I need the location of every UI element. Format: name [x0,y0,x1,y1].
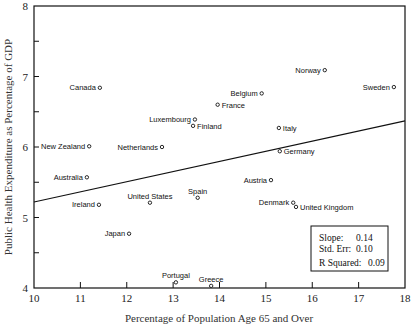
point-label: Netherlands [118,143,159,152]
data-point: Spain [188,187,207,200]
point-label: Denmark [259,198,290,207]
point-marker-icon [278,150,281,153]
point-marker-icon [98,86,101,89]
x-axis-title: Percentage of Population Age 65 and Over [125,312,314,324]
slope-label: Slope: [319,233,343,243]
point-marker-icon [174,281,177,284]
regression-stats-box: Slope: 0.14 Std. Err: 0.10 R Squared: 0.… [311,226,388,271]
point-label: Austria [244,176,268,185]
x-tick-label: 16 [307,292,319,304]
point-label: Australia [54,173,84,182]
point-marker-icon [323,68,326,71]
data-point: Finland [191,122,221,131]
point-label: Greece [199,275,224,284]
y-tick-label: 7 [23,71,29,83]
y-tick-label: 8 [23,0,29,12]
data-point: Germany [278,147,315,156]
r-squared-value: 0.09 [368,258,385,268]
point-marker-icon [292,201,295,204]
point-label: Portugal [162,271,190,280]
point-marker-icon [277,126,280,129]
point-label: United Kingdom [300,203,353,212]
point-marker-icon [148,201,151,204]
data-point: Austria [244,176,273,185]
x-tick-label: 18 [400,292,412,304]
point-label: Italy [283,124,297,133]
point-label: Belgium [231,89,258,98]
point-label: New Zealand [41,142,85,151]
point-marker-icon [193,118,196,121]
x-tick-label: 13 [168,292,180,304]
data-point: Australia [54,173,89,182]
point-label: France [222,101,245,110]
data-point: Portugal [162,271,190,284]
data-point: Ireland [72,200,101,209]
point-marker-icon [127,232,130,235]
point-label: Norway [295,66,321,75]
data-point: Belgium [231,89,264,98]
point-label: Canada [70,83,97,92]
x-tick-label: 11 [75,292,86,304]
r-squared-label: R Squared: [319,258,361,268]
data-point: Norway [295,66,326,75]
x-tick-label: 17 [353,292,365,304]
point-marker-icon [216,103,219,106]
data-point: Canada [70,83,102,92]
x-tick-label: 10 [29,292,41,304]
y-tick-label: 6 [23,141,29,153]
slope-value: 0.14 [356,233,373,243]
point-label: Ireland [72,200,95,209]
regression-line [34,121,405,202]
data-point: Japan [105,229,131,238]
data-point: France [216,101,245,110]
data-point: Denmark [259,198,295,207]
point-label: Luxembourg [149,115,191,124]
y-axis-title: Public Health Expenditure as Percentage … [2,39,14,255]
x-tick-label: 15 [260,292,272,304]
data-point: Netherlands [118,143,164,152]
y-axis-ticks: 45678 [23,0,40,294]
data-point: United Kingdom [294,203,353,212]
point-label: Japan [105,229,125,238]
point-label: United States [127,192,172,201]
x-axis-ticks: 101112131415161718 [29,282,412,304]
x-tick-label: 14 [214,292,226,304]
y-tick-label: 5 [23,212,29,224]
stderr-value: 0.10 [356,244,373,254]
data-point: United States [127,192,172,205]
point-label: Spain [188,187,207,196]
point-marker-icon [209,284,212,287]
y-tick-label: 4 [23,282,29,294]
point-marker-icon [97,203,100,206]
point-marker-icon [294,205,297,208]
point-label: Sweden [363,83,390,92]
point-marker-icon [269,178,272,181]
scatter-chart: 101112131415161718 45678 CanadaNorwaySwe… [0,0,414,326]
point-marker-icon [196,196,199,199]
data-point: Italy [277,124,297,133]
point-label: Germany [284,147,315,156]
point-label: Finland [197,122,222,131]
point-marker-icon [160,145,163,148]
point-marker-icon [85,176,88,179]
x-tick-label: 12 [121,292,132,304]
data-point: Sweden [363,83,396,92]
point-marker-icon [87,145,90,148]
point-marker-icon [191,124,194,127]
point-marker-icon [260,92,263,95]
data-point: New Zealand [41,142,91,151]
stderr-label: Std. Err: [319,244,351,254]
data-point: Luxembourg [149,115,196,124]
point-marker-icon [392,85,395,88]
